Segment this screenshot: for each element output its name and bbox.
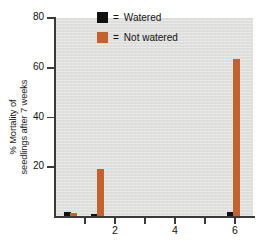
- black-square-swatch-icon: [97, 12, 108, 23]
- x-axis-tick: [204, 217, 206, 224]
- chart-legend: = Watered = Not watered: [97, 12, 178, 43]
- x-axis-tick-label: 6: [225, 224, 245, 236]
- x-axis-tick: [174, 217, 176, 224]
- x-axis-tick: [84, 217, 86, 224]
- orange-square-swatch-icon: [97, 32, 108, 43]
- x-axis-tick: [144, 217, 146, 224]
- y-axis-title-line2: seedlings after 7 weeks: [19, 80, 29, 175]
- y-axis-title: % Mortality of seedlings after 7 weeks: [4, 52, 34, 202]
- legend-equals-sign: =: [113, 12, 119, 23]
- x-axis-tick-label: 2: [105, 224, 125, 236]
- x-axis-tick-label: 4: [165, 224, 185, 236]
- mortality-bar-chart: 20406080 246 % Mortality of seedlings af…: [0, 0, 263, 242]
- legend-item-watered: = Watered: [97, 12, 178, 23]
- x-axis-tick: [234, 217, 236, 224]
- x-axis-tick: [114, 217, 116, 224]
- legend-label-watered: Watered: [124, 12, 161, 23]
- legend-equals-sign: =: [113, 32, 119, 43]
- legend-item-not-watered: = Not watered: [97, 32, 178, 43]
- y-axis-title-line1: % Mortality of: [8, 100, 18, 155]
- legend-label-not-watered: Not watered: [124, 32, 178, 43]
